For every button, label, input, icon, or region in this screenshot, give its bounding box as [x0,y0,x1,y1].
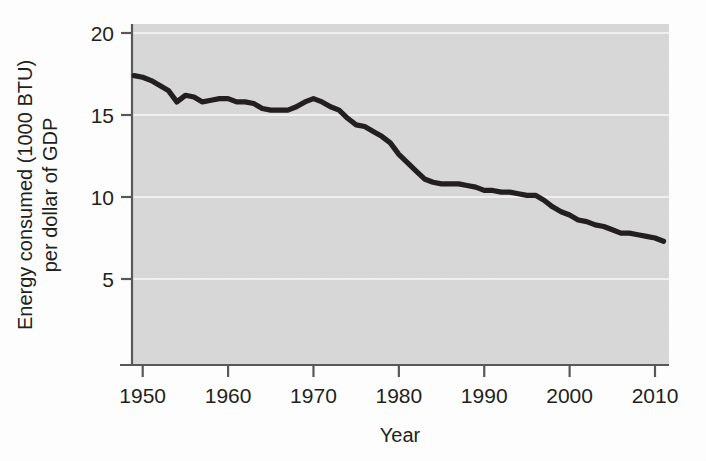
x-tick-label-1990: 1990 [461,384,508,407]
y-axis-title-line1: Energy consumed (1000 BTU) [14,60,36,330]
y-tick-label-10: 10 [91,186,114,209]
y-axis-title-line2: per dollar of GDP [39,118,61,273]
y-tick-label-5: 5 [102,268,114,291]
x-tick-label-2010: 2010 [632,384,679,407]
energy-intensity-chart-figure: 5101520 1950196019701980199020002010 Yea… [0,0,706,461]
x-axis-title: Year [380,424,421,446]
y-tick-label-20: 20 [91,22,114,45]
x-tick-label-1950: 1950 [119,384,166,407]
x-tick-label-1980: 1980 [375,384,422,407]
chart-canvas: 5101520 1950196019701980199020002010 Yea… [0,0,706,461]
x-tick-label-1970: 1970 [290,384,337,407]
x-tick-label-2000: 2000 [546,384,593,407]
y-tick-label-15: 15 [91,104,114,127]
plot-area-background [132,24,669,365]
x-tick-label-1960: 1960 [205,384,252,407]
